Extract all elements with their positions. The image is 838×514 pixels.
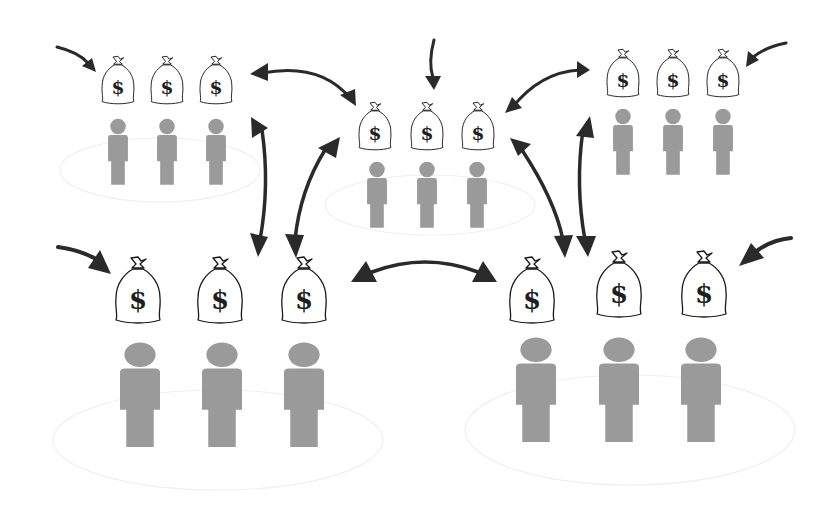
- double-arrow-icon: [250, 63, 356, 106]
- money-bag-icon: [282, 257, 326, 323]
- money-bag-icon: [151, 56, 183, 104]
- person-icon: [284, 343, 324, 447]
- group-top-right: [607, 49, 739, 174]
- person-icon: [108, 119, 128, 185]
- inflow-arrow-icon: [746, 43, 786, 67]
- money-bag-icon: [597, 251, 641, 317]
- inflow-arrow-icon: [739, 238, 791, 266]
- person-icon: [681, 338, 721, 442]
- money-bag-icon: [462, 102, 494, 150]
- money-exchange-diagram: $: [0, 0, 838, 514]
- person-icon: [467, 162, 487, 228]
- money-bag-icon: [198, 257, 242, 323]
- money-bag-icon: [411, 102, 443, 150]
- money-bag-icon: [707, 49, 739, 97]
- person-icon: [157, 119, 177, 185]
- double-arrow-icon: [505, 61, 590, 113]
- inflow-arrow-icon: [57, 47, 96, 72]
- inflow-arrow-icon: [58, 247, 111, 274]
- money-bag-icon: [359, 102, 391, 150]
- money-bag-icon: [200, 56, 232, 104]
- group-bottom-right: [510, 251, 726, 442]
- money-bag-icon: [510, 257, 554, 323]
- group-top-center: [359, 102, 494, 227]
- double-arrow-icon: [285, 137, 340, 258]
- person-icon: [120, 343, 160, 447]
- money-bag-icon: [657, 49, 689, 97]
- person-icon: [206, 119, 226, 185]
- person-icon: [613, 109, 633, 175]
- person-icon: [202, 343, 242, 447]
- group-top-left: [102, 56, 232, 184]
- money-bag-icon: [682, 251, 726, 317]
- person-icon: [516, 338, 556, 442]
- person-icon: [663, 109, 683, 175]
- person-icon: [367, 162, 387, 228]
- person-icon: [417, 162, 437, 228]
- double-arrow-icon: [576, 116, 596, 257]
- money-bag-icon: [607, 49, 639, 97]
- double-arrow-icon: [250, 117, 268, 257]
- double-arrow-icon: [351, 261, 497, 282]
- person-icon: [599, 338, 639, 442]
- group-bottom-left: [116, 257, 326, 447]
- money-bag-icon: [116, 257, 160, 323]
- inflow-arrow-icon: [425, 40, 441, 90]
- money-bag-icon: [102, 56, 134, 104]
- double-arrow-icon: [510, 138, 573, 258]
- person-icon: [713, 109, 733, 175]
